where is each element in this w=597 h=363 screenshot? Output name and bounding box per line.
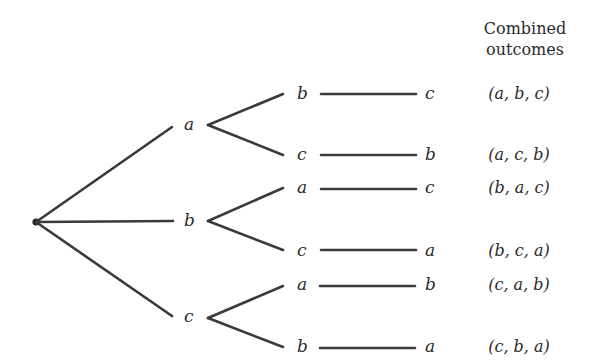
node-level1-a: a (184, 114, 194, 134)
tree-diagram: Combined outcomes a b c b c a c a b c b … (0, 0, 597, 363)
node-level2-ba: a (297, 177, 307, 197)
node-level1-c: c (184, 306, 194, 326)
node-level3-acb: b (425, 144, 436, 164)
node-level2-ca: a (297, 274, 307, 294)
outcome-bca: (b, c, a) (488, 241, 550, 260)
node-level2-cb: b (297, 336, 308, 356)
edge-a-to-b (208, 94, 283, 125)
node-level2-ac: c (297, 144, 307, 164)
node-level3-cab: b (425, 274, 436, 294)
edge-root-to-b (36, 221, 173, 222)
outcome-abc: (a, b, c) (488, 84, 550, 103)
outcome-acb: (a, c, b) (488, 145, 550, 164)
outcome-cab: (c, a, b) (488, 275, 550, 294)
node-level2-bc: c (297, 240, 307, 260)
outcome-cba: (c, b, a) (488, 337, 550, 356)
edge-c-to-a (208, 286, 283, 318)
node-level3-abc: c (425, 83, 435, 103)
node-level3-bca: a (425, 240, 435, 260)
edge-a-to-c (208, 125, 283, 155)
edge-c-to-b (208, 318, 283, 347)
node-level2-ab: b (297, 83, 308, 103)
edge-b-to-c (208, 221, 283, 250)
node-level3-bac: c (425, 177, 435, 197)
edge-root-to-a (36, 127, 172, 222)
node-level3-cba: a (425, 336, 435, 356)
edge-b-to-a (208, 188, 283, 221)
header-outcomes: outcomes (486, 40, 564, 59)
header-combined: Combined (484, 19, 566, 38)
node-level1-b: b (184, 210, 195, 230)
edge-root-to-c (36, 222, 172, 316)
outcome-bac: (b, a, c) (488, 178, 550, 197)
